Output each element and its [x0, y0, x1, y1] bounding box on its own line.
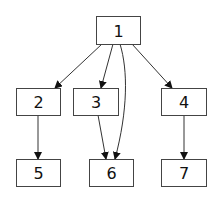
node-1: 1 — [97, 17, 141, 45]
node-3: 3 — [74, 89, 119, 116]
node-label: 3 — [91, 93, 101, 112]
nodes: 1234567 — [17, 17, 207, 187]
node-label: 6 — [106, 164, 116, 183]
node-label: 2 — [33, 93, 43, 112]
node-4: 4 — [162, 89, 207, 116]
edge-1-to-2 — [55, 44, 102, 88]
edge-1-to-3 — [101, 44, 113, 88]
node-6: 6 — [90, 160, 134, 187]
diagram-svg: 1234567 — [0, 0, 214, 201]
edge-1-to-4 — [132, 44, 172, 88]
node-label: 5 — [33, 164, 43, 183]
node-5: 5 — [17, 160, 61, 187]
node-label: 4 — [179, 93, 189, 112]
node-label: 7 — [179, 164, 189, 183]
tree-diagram: 1234567 — [0, 0, 214, 201]
node-label: 1 — [113, 22, 123, 41]
edge-3-to-6 — [98, 115, 106, 159]
node-2: 2 — [17, 89, 61, 116]
node-7: 7 — [162, 160, 207, 187]
